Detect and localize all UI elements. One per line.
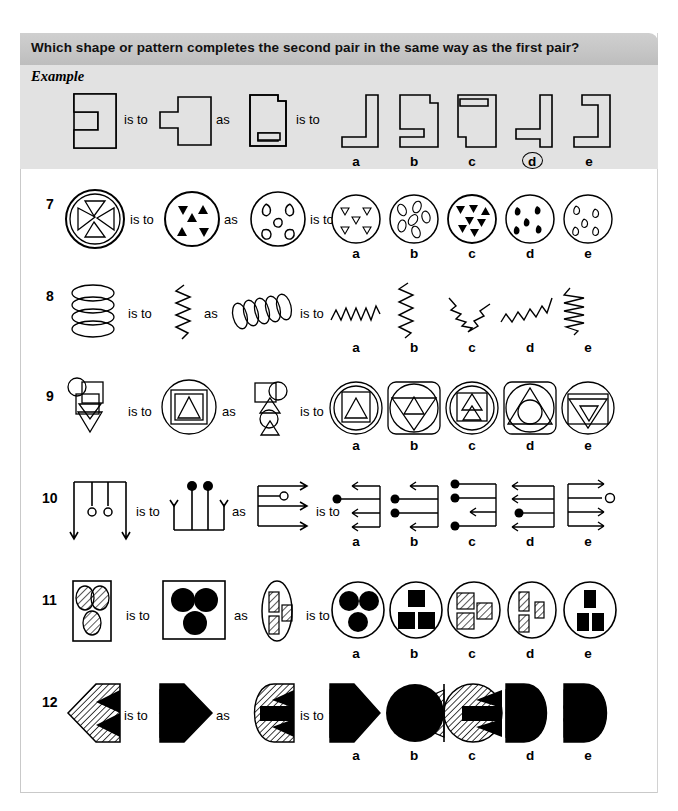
- q7-stimulus-1: [64, 188, 126, 250]
- q12-option-label-a: a: [347, 748, 365, 763]
- q12-connector-is-to-2: is to: [300, 708, 324, 723]
- q10-connector-as: as: [232, 504, 246, 519]
- q8-option-a[interactable]: [328, 300, 386, 326]
- q8-connector-is-to-2: is to: [300, 306, 324, 321]
- example-connector-is-to-1: is to: [124, 112, 148, 127]
- q8-option-label-d: d: [521, 340, 539, 355]
- example-option-b[interactable]: [398, 93, 440, 149]
- q7-option-b[interactable]: [388, 193, 440, 245]
- question-number-12: 12: [42, 694, 58, 710]
- example-connector-as: as: [216, 112, 230, 127]
- q8-option-e[interactable]: [560, 285, 604, 337]
- q7-option-d[interactable]: [504, 193, 556, 245]
- q10-option-label-d: d: [521, 534, 539, 549]
- q12-connector-is-to-1: is to: [124, 708, 148, 723]
- q11-option-b[interactable]: [388, 580, 444, 640]
- example-option-label-b: b: [405, 154, 423, 169]
- example-option-label-e: e: [580, 154, 598, 169]
- q10-option-label-a: a: [347, 534, 365, 549]
- q9-option-e[interactable]: [560, 380, 616, 436]
- q9-connector-is-to-1: is to: [128, 404, 152, 419]
- example-stimulus-3: [248, 93, 288, 148]
- q12-option-a[interactable]: [328, 682, 382, 744]
- q11-stimulus-1: [68, 578, 116, 644]
- example-option-a[interactable]: [340, 93, 380, 149]
- q9-stimulus-1: [64, 375, 124, 437]
- q10-connector-is-to-1: is to: [136, 504, 160, 519]
- q7-option-e[interactable]: [562, 193, 614, 245]
- q12-option-e[interactable]: [562, 682, 618, 744]
- q8-option-label-c: c: [463, 340, 481, 355]
- q7-connector-as: as: [224, 212, 238, 227]
- example-stimulus-1: [72, 92, 118, 150]
- q10-option-c[interactable]: [446, 478, 500, 532]
- q11-stimulus-3: [258, 578, 300, 644]
- q8-stimulus-1: [66, 283, 120, 339]
- q11-option-label-d: d: [521, 646, 539, 661]
- q8-option-label-e: e: [579, 340, 597, 355]
- q9-stimulus-2: [160, 378, 218, 436]
- q9-option-c[interactable]: [444, 380, 500, 436]
- q12-stimulus-1: [66, 682, 122, 744]
- example-option-label-d: d: [523, 154, 541, 169]
- q8-option-label-a: a: [347, 340, 365, 355]
- q7-option-c[interactable]: [446, 193, 498, 245]
- q11-option-label-e: e: [579, 646, 597, 661]
- q10-stimulus-1: [68, 476, 132, 542]
- question-number-11: 11: [42, 592, 57, 608]
- q12-connector-as: as: [216, 708, 230, 723]
- q11-stimulus-2: [160, 578, 228, 642]
- q7-option-label-a: a: [347, 246, 365, 261]
- q12-option-b[interactable]: [384, 682, 446, 744]
- q9-option-d[interactable]: [502, 380, 558, 436]
- q9-option-label-d: d: [521, 438, 539, 453]
- q8-option-d[interactable]: [498, 290, 558, 330]
- q9-option-label-b: b: [405, 438, 423, 453]
- q7-stimulus-3: [249, 190, 307, 248]
- example-option-e[interactable]: [572, 93, 612, 149]
- q10-option-label-e: e: [579, 534, 597, 549]
- q11-option-a[interactable]: [330, 580, 386, 640]
- q10-option-a[interactable]: [330, 482, 384, 532]
- q12-option-label-e: e: [579, 748, 597, 763]
- q10-option-label-c: c: [463, 534, 481, 549]
- q10-option-e[interactable]: [562, 478, 618, 532]
- q12-option-c[interactable]: [442, 682, 504, 744]
- q8-connector-is-to-1: is to: [128, 306, 152, 321]
- q8-option-c[interactable]: [444, 292, 500, 334]
- example-option-d[interactable]: [514, 93, 554, 149]
- question-number-10: 10: [42, 490, 58, 506]
- question-number-7: 7: [46, 196, 54, 212]
- q10-option-label-b: b: [405, 534, 423, 549]
- q8-option-label-b: b: [405, 340, 423, 355]
- q9-option-a[interactable]: [328, 380, 384, 436]
- q11-connector-is-to-1: is to: [126, 608, 150, 623]
- example-connector-is-to-2: is to: [296, 112, 320, 127]
- q11-connector-is-to-2: is to: [306, 608, 330, 623]
- q11-option-label-c: c: [463, 646, 481, 661]
- q9-connector-is-to-2: is to: [300, 404, 324, 419]
- q11-option-label-b: b: [405, 646, 423, 661]
- q12-stimulus-2: [156, 682, 214, 744]
- q7-stimulus-2: [163, 190, 221, 248]
- q10-option-d[interactable]: [504, 482, 558, 532]
- q11-option-e[interactable]: [562, 580, 618, 640]
- q7-option-label-d: d: [521, 246, 539, 261]
- q9-connector-as: as: [222, 404, 236, 419]
- q8-connector-as: as: [204, 306, 218, 321]
- q7-option-a[interactable]: [330, 193, 382, 245]
- q10-stimulus-3: [254, 482, 314, 534]
- q8-stimulus-3: [228, 292, 300, 330]
- example-option-c[interactable]: [456, 93, 498, 149]
- q10-option-b[interactable]: [388, 482, 442, 532]
- q9-option-b[interactable]: [386, 380, 442, 436]
- q10-stimulus-2: [168, 478, 230, 540]
- q12-option-label-b: b: [405, 748, 423, 763]
- q12-option-d[interactable]: [504, 682, 560, 744]
- q7-option-label-c: c: [463, 246, 481, 261]
- q11-connector-as: as: [234, 608, 248, 623]
- q9-stimulus-3: [248, 378, 294, 440]
- q11-option-d[interactable]: [504, 580, 560, 640]
- q11-option-c[interactable]: [446, 580, 502, 640]
- q8-option-b[interactable]: [392, 281, 422, 339]
